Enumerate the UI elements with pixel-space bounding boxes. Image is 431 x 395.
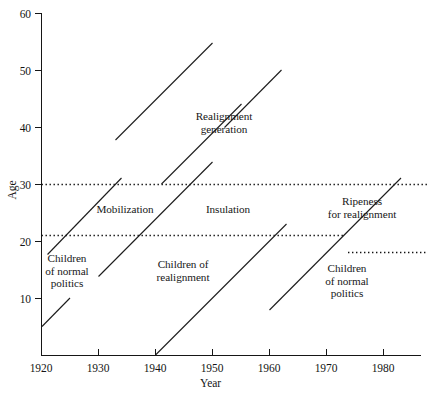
cohort-pre-1920 bbox=[42, 298, 70, 327]
cohort-1940 bbox=[156, 224, 287, 355]
label-children-of-normal-politics-right: Children of normal politics bbox=[325, 262, 368, 300]
label-children-of-normal-politics-left: Children of normal politics bbox=[45, 252, 88, 290]
x-axis-title: Year bbox=[200, 377, 221, 389]
cohort-1902 bbox=[48, 178, 122, 255]
x-tick-label-1930: 1930 bbox=[87, 362, 110, 374]
x-tick-label-1970: 1970 bbox=[315, 362, 338, 374]
x-axis-ticks bbox=[42, 349, 384, 356]
label-ripeness-for-realignment: Ripeness for realignment bbox=[328, 195, 397, 220]
y-tick-label-40: 40 bbox=[9, 122, 31, 134]
y-axis-title: Age bbox=[6, 170, 18, 210]
x-tick-label-1980: 1980 bbox=[372, 362, 395, 374]
y-tick-label-60: 60 bbox=[9, 8, 31, 20]
x-tick-label-1920: 1920 bbox=[30, 362, 53, 374]
y-tick-label-50: 50 bbox=[9, 65, 31, 77]
x-tick-label-1960: 1960 bbox=[258, 362, 281, 374]
label-mobilization: Mobilization bbox=[96, 203, 153, 216]
label-realignment-generation: Realignment generation bbox=[196, 110, 253, 135]
label-insulation: Insulation bbox=[206, 203, 250, 216]
y-axis-ticks bbox=[35, 14, 42, 299]
y-tick-label-10: 10 bbox=[9, 293, 31, 305]
y-tick-label-20: 20 bbox=[9, 236, 31, 248]
x-tick-label-1950: 1950 bbox=[201, 362, 224, 374]
cohort-realignment-chart: 60 50 40 30 20 10 1920 1930 1940 1950 19… bbox=[0, 0, 431, 395]
x-tick-label-1940: 1940 bbox=[144, 362, 167, 374]
label-children-of-realignment: Children of realignment bbox=[157, 258, 210, 283]
